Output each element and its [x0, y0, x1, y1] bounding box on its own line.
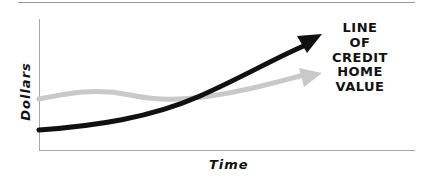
- legend-home-value: HOME VALUE: [335, 64, 385, 94]
- y-axis-label: Dollars: [18, 62, 33, 121]
- line-of-credit-line: [39, 45, 306, 130]
- legend-line-of-credit-line2: CREDIT: [330, 50, 390, 65]
- home-value-line: [39, 76, 300, 99]
- legend-line-of-credit: LINE OF CREDIT: [330, 20, 390, 65]
- legend-home-value-line2: VALUE: [335, 79, 385, 94]
- legend-line-of-credit-line1: LINE OF: [330, 20, 390, 50]
- x-axis-label: Time: [209, 157, 249, 172]
- home-value-arrowhead: [299, 68, 322, 87]
- line-of-credit-arrowhead: [297, 34, 322, 53]
- legend-home-value-line1: HOME: [335, 64, 385, 79]
